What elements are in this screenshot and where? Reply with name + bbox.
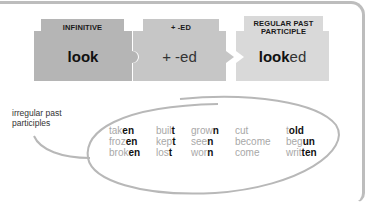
word-column-2: built kept lost bbox=[156, 125, 175, 158]
callout-line-2: participles bbox=[12, 118, 62, 128]
word-item: kept bbox=[156, 136, 175, 147]
word-column-1: taken frozen broken bbox=[109, 125, 140, 158]
word-ed: + -ed bbox=[133, 48, 226, 65]
word-past-participle-suffix: ed bbox=[290, 48, 307, 65]
word-item: told bbox=[286, 125, 317, 136]
word-item: taken bbox=[109, 125, 140, 136]
word-past-participle: looked bbox=[236, 48, 329, 65]
word-infinitive: look bbox=[34, 48, 132, 65]
word-column-3: grown seen worn bbox=[191, 125, 219, 158]
header-infinitive: INFINITIVE bbox=[41, 24, 124, 32]
word-column-5: told begun written bbox=[286, 125, 317, 158]
header-line-2: PARTICIPLE bbox=[244, 28, 323, 36]
callout-line-1: irregular past bbox=[12, 108, 62, 118]
callout-leader-line bbox=[34, 136, 90, 158]
word-item: become bbox=[235, 136, 271, 147]
callout-label: irregular past participles bbox=[12, 108, 62, 128]
word-past-participle-stem: look bbox=[259, 48, 290, 65]
word-item: cut bbox=[235, 125, 271, 136]
word-ed-text: + -ed bbox=[162, 48, 197, 65]
word-item: broken bbox=[109, 147, 140, 158]
word-item: come bbox=[235, 147, 271, 158]
word-item: built bbox=[156, 125, 175, 136]
word-item: lost bbox=[156, 147, 175, 158]
word-item: written bbox=[286, 147, 317, 158]
word-item: begun bbox=[286, 136, 317, 147]
word-infinitive-bold: look bbox=[68, 48, 99, 65]
word-item: seen bbox=[191, 136, 219, 147]
word-column-4: cut become come bbox=[235, 125, 271, 158]
word-item: worn bbox=[191, 147, 219, 158]
word-item: frozen bbox=[109, 136, 140, 147]
word-item: grown bbox=[191, 125, 219, 136]
header-ed: + -ED bbox=[143, 24, 219, 32]
header-past-participle: REGULAR PAST PARTICIPLE bbox=[244, 20, 323, 36]
